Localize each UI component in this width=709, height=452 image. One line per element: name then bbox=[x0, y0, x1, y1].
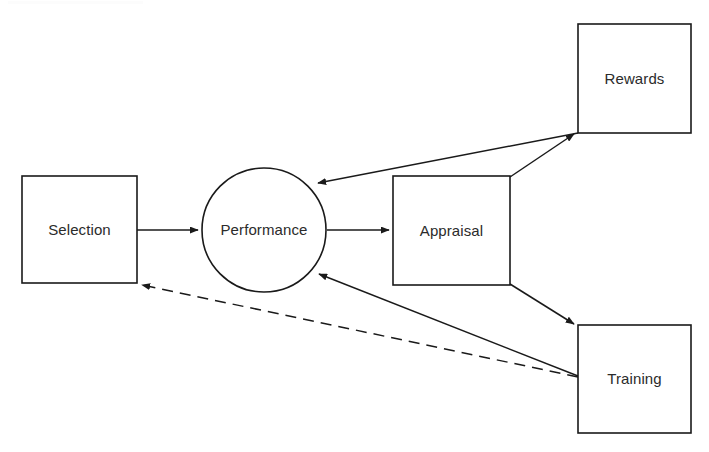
node-appraisal[interactable]: Appraisal bbox=[393, 176, 510, 285]
diagram-canvas: Selection Performance Appraisal Rewards … bbox=[0, 0, 709, 452]
selection-label: Selection bbox=[48, 221, 111, 238]
appraisal-label: Appraisal bbox=[420, 222, 483, 239]
training-label: Training bbox=[607, 370, 661, 387]
flow-diagram: Selection Performance Appraisal Rewards … bbox=[0, 0, 709, 452]
rewards-label: Rewards bbox=[605, 70, 665, 87]
node-rewards[interactable]: Rewards bbox=[578, 24, 691, 133]
node-selection[interactable]: Selection bbox=[22, 176, 137, 283]
edge-training-to-performance bbox=[319, 274, 578, 376]
node-training[interactable]: Training bbox=[578, 325, 691, 433]
edge-appraisal-to-training bbox=[510, 284, 574, 324]
edge-layer bbox=[137, 133, 578, 377]
performance-label: Performance bbox=[221, 221, 308, 238]
node-performance[interactable]: Performance bbox=[202, 168, 326, 292]
edge-training-to-selection bbox=[142, 285, 578, 377]
